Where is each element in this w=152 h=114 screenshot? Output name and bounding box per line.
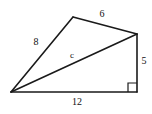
diagonal-ac-label: c [70,51,74,60]
diagonal-ac-line [11,34,137,92]
right-angle-icon [128,83,137,92]
geometry-figure: 8 6 5 12 c [0,0,152,114]
side-ab-label: 8 [34,37,39,47]
side-da-label: 12 [72,97,82,107]
side-ab-line [11,17,73,92]
side-bc-label: 6 [100,9,105,19]
side-cd-label: 5 [142,56,147,66]
side-bc-line [73,17,137,34]
